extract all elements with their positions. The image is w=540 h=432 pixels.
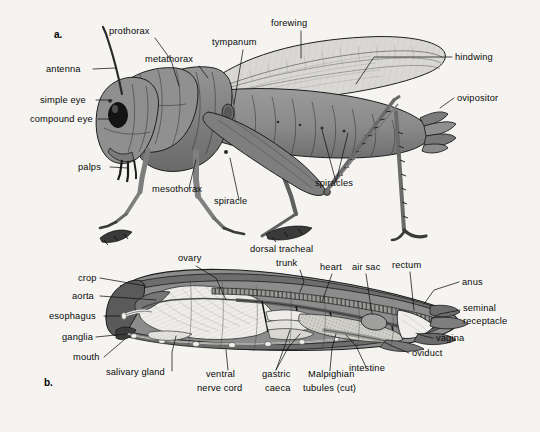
label-heart: heart xyxy=(320,262,342,272)
label-trunk: trunk xyxy=(276,258,298,268)
label-forewing: forewing xyxy=(271,18,307,28)
label-ganglia: ganglia xyxy=(62,332,94,342)
label-metathorax: metathorax xyxy=(145,54,193,64)
label-esophagus: esophagus xyxy=(49,311,96,321)
label-antenna: antenna xyxy=(46,64,81,74)
label-spiracles: spiracles xyxy=(315,178,353,188)
label-mouth: mouth xyxy=(73,352,100,362)
compound-eye xyxy=(109,103,128,128)
label-seminal: seminal xyxy=(463,303,496,313)
label-gastric: gastric xyxy=(262,369,291,379)
label-tympanum: tympanum xyxy=(212,37,257,47)
label-malpighian: Malpighian xyxy=(308,369,354,379)
thoracic-spiracle xyxy=(224,150,228,154)
label-anus: anus xyxy=(462,277,483,287)
label-crop: crop xyxy=(78,273,97,283)
label-mesothorax: mesothorax xyxy=(152,184,202,194)
label-spiracle: spiracle xyxy=(214,196,247,206)
label-salivary-gland: salivary gland xyxy=(106,367,165,377)
panel-letter-a: a. xyxy=(54,29,63,40)
label-oviduct: oviduct xyxy=(412,348,443,358)
label-vagina: vagina xyxy=(436,333,465,343)
label-ovary: ovary xyxy=(178,253,202,263)
label-prothorax: prothorax xyxy=(109,26,150,36)
label-ovipositor: ovipositor xyxy=(457,93,498,103)
label-receptacle: receptacle xyxy=(463,316,507,326)
label-ventral: ventral xyxy=(206,369,235,379)
label-simple-eye: simple eye xyxy=(40,95,86,105)
panel-letter-b: b. xyxy=(44,377,53,388)
label-palps: palps xyxy=(78,162,101,172)
grasshopper-anatomy-figure: a. prothorax forewing metathorax tympanu… xyxy=(0,0,540,432)
label-compound-eye: compound eye xyxy=(30,114,93,124)
figure-root: a. prothorax forewing metathorax tympanu… xyxy=(0,0,540,432)
label-rectum: rectum xyxy=(392,260,421,270)
label-aorta: aorta xyxy=(72,291,95,301)
label-caeca: caeca xyxy=(265,383,291,393)
label-hindwing: hindwing xyxy=(455,52,493,62)
label-dorsal-tracheal: dorsal tracheal xyxy=(250,244,313,254)
label-nerve-cord: nerve cord xyxy=(197,383,242,393)
label-air-sac: air sac xyxy=(352,262,381,272)
label-tubules-cut: tubules (cut) xyxy=(303,383,356,393)
